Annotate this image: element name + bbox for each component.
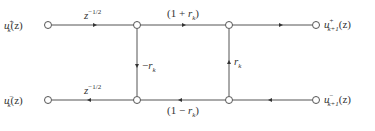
input-top-node [45,22,52,29]
junction-top-right-node [226,22,233,29]
gain-open: (1 − [167,104,188,116]
junction-top-left-node [134,22,141,29]
label-arg: (z) [11,19,23,31]
gain-sub: k [153,66,156,74]
arrow-up-icon [227,60,231,64]
junction-bottom-right-node [226,97,233,104]
arrow-left-icon [268,98,272,102]
input-bottom-label: u−k(z) [4,94,23,109]
label-sup: − [330,92,334,100]
arrow-left-icon [178,98,182,102]
gain-close: ) [195,7,199,19]
left-vertical-label: −rk [142,60,156,74]
arrow-down-icon [135,64,139,68]
bottom-delay-label: z−1/2 [84,84,101,96]
arrow-right-icon [279,23,283,27]
input-top-label: u+k(z) [4,19,23,34]
top-gain-label: (1 + rk) [167,8,199,22]
label-arg: (z) [11,94,23,106]
label-sup: + [330,17,334,25]
bottom-gain-label: (1 − rk) [167,105,199,119]
gain-sub: k [238,62,241,70]
label-arg: (z) [339,18,351,30]
top-delay-label: z−1/2 [84,9,101,21]
delay-exp: −1/2 [88,83,101,91]
arrow-right-icon [182,23,186,27]
label-sub: k+1 [327,25,338,33]
label-sub: k+1 [327,100,338,108]
delay-exp: −1/2 [88,8,101,16]
output-bottom-label: u−k+1(z) [324,93,351,108]
arrow-right-icon [93,23,97,27]
output-bottom-node [313,97,320,104]
junction-bottom-left-node [134,97,141,104]
output-top-label: u+k+1(z) [324,18,351,33]
gain-close: ) [195,104,199,116]
label-arg: (z) [339,93,351,105]
arrow-left-icon [87,98,91,102]
right-vertical-label: rk [234,56,241,70]
output-top-node [313,22,320,29]
input-bottom-node [45,97,52,104]
gain-open: (1 + [167,7,188,19]
